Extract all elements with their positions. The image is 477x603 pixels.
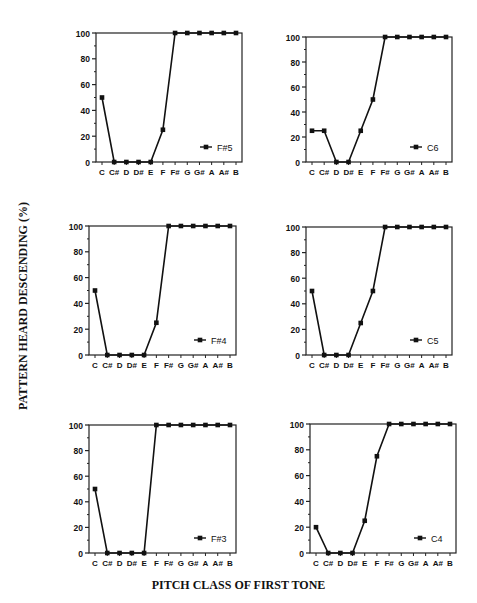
x-axis-label: PITCH CLASS OF FIRST TONE (0, 578, 477, 593)
x-tick-label: E (358, 361, 364, 370)
data-point-marker (148, 160, 153, 165)
x-tick-label: F (370, 168, 375, 177)
data-point-marker (112, 160, 117, 165)
data-point-marker (310, 128, 315, 133)
x-tick-label: F (370, 361, 375, 370)
legend-marker-icon (204, 145, 209, 150)
y-tick-label: 80 (74, 446, 84, 456)
x-tick-label: A# (219, 168, 230, 177)
x-tick-label: D (117, 361, 123, 370)
x-tick-label: F (374, 559, 379, 568)
data-point-marker (419, 35, 424, 40)
data-point-marker (161, 127, 166, 132)
x-tick-label: C# (102, 559, 113, 568)
data-point-marker (191, 224, 196, 229)
data-point-marker (444, 35, 449, 40)
data-point-marker (228, 423, 233, 428)
chart-panel-fs3: 020406080100CC#DD#EFF#GG#AA#BF#3 (69, 421, 236, 569)
x-tick-label: F (154, 361, 159, 370)
data-point-marker (432, 225, 437, 230)
x-tick-label: F# (380, 168, 390, 177)
legend-label: C6 (427, 143, 439, 153)
data-point-marker (124, 160, 129, 165)
y-tick-label: 40 (295, 497, 305, 507)
x-tick-label: D (123, 168, 129, 177)
data-point-marker (130, 551, 135, 556)
data-line (312, 227, 446, 355)
y-tick-label: 80 (74, 247, 84, 257)
legend-marker-icon (414, 145, 419, 150)
y-tick-label: 100 (286, 33, 300, 43)
legend-marker-icon (198, 536, 203, 541)
data-point-marker (383, 35, 388, 40)
data-point-marker (358, 128, 363, 133)
x-tick-label: F# (164, 361, 174, 370)
data-point-marker (358, 321, 363, 326)
data-point-marker (234, 31, 239, 36)
data-line (316, 424, 450, 553)
x-tick-label: E (362, 559, 368, 568)
legend-marker-icon (414, 338, 419, 343)
data-point-marker (154, 320, 159, 325)
data-point-marker (166, 224, 171, 229)
data-point-marker (338, 551, 343, 556)
x-tick-label: E (141, 559, 147, 568)
x-tick-label: G# (404, 168, 415, 177)
data-point-marker (197, 31, 202, 36)
x-tick-label: A# (213, 361, 224, 370)
data-point-marker (142, 551, 147, 556)
y-tick-label: 0 (85, 158, 90, 168)
data-point-marker (350, 551, 355, 556)
x-tick-label: E (141, 361, 147, 370)
y-tick-label: 100 (286, 223, 300, 233)
x-tick-label: D# (127, 559, 138, 568)
x-tick-label: B (227, 361, 233, 370)
data-point-marker (130, 353, 135, 358)
data-point-marker (407, 225, 412, 230)
data-point-marker (209, 31, 214, 36)
data-point-marker (322, 353, 327, 358)
y-tick-label: 40 (291, 108, 301, 118)
y-tick-label: 40 (74, 497, 84, 507)
y-tick-label: 0 (299, 549, 304, 559)
y-tick-label: 100 (69, 421, 83, 431)
figure: 020406080100CC#DD#EFF#GG#AA#BF#502040608… (0, 0, 477, 603)
y-tick-label: 100 (290, 420, 304, 430)
x-tick-label: D# (127, 361, 138, 370)
x-tick-label: G (178, 559, 184, 568)
data-point-marker (179, 423, 184, 428)
x-tick-label: C (92, 361, 98, 370)
x-tick-label: F (160, 168, 165, 177)
data-point-marker (100, 95, 105, 100)
y-axis-label: PATTERN HEARD DESCENDING (%) (12, 210, 34, 410)
x-tick-label: G# (408, 559, 419, 568)
data-point-marker (310, 289, 315, 294)
data-point-marker (173, 31, 178, 36)
x-tick-label: A (203, 559, 209, 568)
data-point-marker (215, 423, 220, 428)
data-point-marker (326, 551, 331, 556)
y-tick-label: 20 (295, 523, 305, 533)
x-tick-label: C (92, 559, 98, 568)
y-tick-label: 60 (81, 80, 91, 90)
y-tick-label: 80 (81, 54, 91, 64)
x-tick-label: B (443, 168, 449, 177)
legend-label: C4 (431, 534, 443, 544)
y-tick-label: 60 (74, 273, 84, 283)
y-tick-label: 60 (74, 472, 84, 482)
data-line (95, 226, 230, 355)
data-point-marker (222, 31, 227, 36)
x-tick-label: D (333, 168, 339, 177)
x-tick-label: F# (384, 559, 394, 568)
x-tick-label: G (394, 168, 400, 177)
data-point-marker (105, 551, 110, 556)
x-tick-label: D (333, 361, 339, 370)
y-tick-label: 60 (291, 274, 301, 284)
y-tick-label: 80 (295, 445, 305, 455)
data-point-marker (387, 422, 392, 427)
data-point-marker (395, 225, 400, 230)
x-tick-label: F# (170, 168, 180, 177)
data-point-marker (322, 128, 327, 133)
x-tick-label: C# (109, 168, 120, 177)
y-tick-label: 80 (291, 248, 301, 258)
